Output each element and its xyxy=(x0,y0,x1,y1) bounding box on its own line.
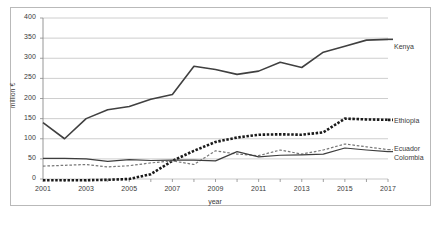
y-tick-label: 50 xyxy=(14,154,36,161)
y-tick-label: 400 xyxy=(14,13,36,20)
y-tick-label: 300 xyxy=(14,53,36,60)
x-tick-label: 2009 xyxy=(203,185,229,192)
y-tick-label: 200 xyxy=(14,94,36,101)
legend-line-swatches xyxy=(388,39,393,151)
x-tick-label: 2015 xyxy=(332,185,358,192)
series-line-kenya xyxy=(43,39,388,138)
x-tick-label: 2005 xyxy=(116,185,142,192)
chart-figure: 050100150200250300350400 200120032005200… xyxy=(0,0,441,228)
series-label-ecuador: Ecuador xyxy=(394,145,420,154)
series-line-colombia xyxy=(43,148,388,161)
y-axis-label: million € xyxy=(9,71,16,121)
x-tick-label: 2003 xyxy=(73,185,99,192)
y-tick-label: 150 xyxy=(14,114,36,121)
chart-plot-area xyxy=(0,0,441,228)
x-tick-label: 2007 xyxy=(159,185,185,192)
series-label-colombia: Colombia xyxy=(394,154,424,163)
y-tick-label: 0 xyxy=(14,174,36,181)
y-tick-label: 100 xyxy=(14,134,36,141)
series-label-ethiopia: Ethiopia xyxy=(394,117,419,126)
gridlines xyxy=(40,18,388,179)
x-tick-label: 2011 xyxy=(246,185,272,192)
x-tick-label: 2017 xyxy=(375,185,401,192)
x-tick-label: 2001 xyxy=(30,185,56,192)
series-label-kenya: Kenya xyxy=(394,43,414,52)
y-tick-label: 350 xyxy=(14,33,36,40)
y-tick-label: 250 xyxy=(14,73,36,80)
x-tick-label: 2013 xyxy=(289,185,315,192)
series-line-ethiopia xyxy=(43,119,388,181)
series-line-ecuador xyxy=(43,144,388,167)
x-axis-label: year xyxy=(195,198,235,205)
